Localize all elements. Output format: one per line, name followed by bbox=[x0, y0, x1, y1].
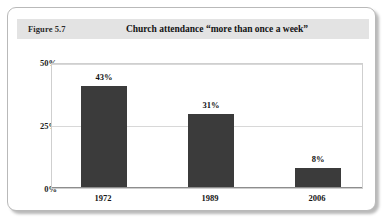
bar-value-label-1972: 43% bbox=[81, 72, 127, 82]
figure-title: Church attendance “more than once a week… bbox=[17, 24, 369, 34]
figure-header-band: Figure 5.7 Church attendance “more than … bbox=[17, 19, 369, 39]
plot-area: 43% 31% 8% bbox=[51, 63, 363, 189]
gridline-50 bbox=[52, 64, 362, 65]
bar-value-label-2006: 8% bbox=[295, 154, 341, 164]
x-axis-tick-1972: 1972 bbox=[73, 193, 133, 203]
axis-baseline bbox=[52, 187, 362, 188]
bar-chart: 50% 25% 0% 43% 31% 8% bbox=[8, 48, 375, 210]
bar-value-label-1989: 31% bbox=[188, 100, 234, 110]
bar-2006[interactable] bbox=[295, 168, 341, 187]
bar-1972[interactable] bbox=[81, 86, 127, 187]
x-axis-tick-1989: 1989 bbox=[180, 193, 240, 203]
x-axis-tick-2006: 2006 bbox=[287, 193, 347, 203]
bar-1989[interactable] bbox=[188, 114, 234, 187]
figure-frame: Figure 5.7 Church attendance “more than … bbox=[7, 7, 376, 211]
